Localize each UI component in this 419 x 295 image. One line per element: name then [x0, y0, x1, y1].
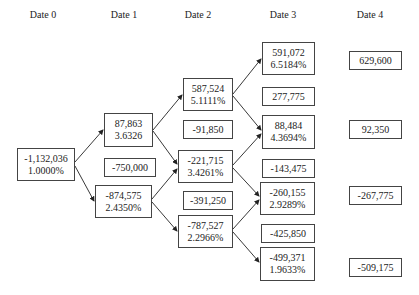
node-date3-udd: -260,155 2.9289%	[260, 182, 315, 215]
node-value: -143,475	[271, 163, 307, 175]
arrow-dd-ddd	[233, 232, 259, 262]
node-date2-dd: -787,527 2.2966%	[178, 215, 233, 248]
node-value: -221,715	[188, 155, 224, 167]
node-date3-uud: 88,484 4.3694%	[262, 115, 315, 149]
node-value: -267,775	[358, 190, 394, 202]
node-rate: 3.4261%	[188, 167, 224, 179]
node-value: -787,527	[188, 220, 224, 232]
node-date3-uuu: 591,072 6.5184%	[262, 42, 315, 75]
node-rate: 4.3694%	[271, 132, 307, 144]
node-value: 629,600	[359, 55, 392, 67]
node-value: 277,775	[272, 91, 305, 103]
node-rate: 2.2966%	[188, 232, 224, 244]
node-value: -425,850	[270, 228, 306, 240]
arrow-ud-udd	[233, 168, 259, 196]
node-date4-2: 92,350	[349, 120, 402, 139]
node-date4-1: 629,600	[349, 51, 402, 70]
node-value: -1,132,036	[24, 153, 67, 165]
node-value: 88,484	[275, 120, 303, 132]
node-value: -499,371	[270, 252, 306, 264]
node-date4-4: -509,175	[349, 258, 402, 277]
node-rate: 3.6326	[115, 130, 143, 142]
node-value: -260,155	[270, 187, 306, 199]
arrow-dd-udd	[233, 200, 259, 229]
node-date1-up: 87,863 3.6326	[104, 113, 153, 147]
arrow-u-uu	[153, 95, 182, 130]
node-date2-mid1: -91,850	[183, 120, 233, 139]
node-rate: 5.1111%	[191, 95, 226, 107]
arrow-root-down	[75, 166, 94, 201]
arrow-ud-uud	[233, 134, 261, 165]
node-date3-mid3: -425,850	[261, 224, 315, 243]
node-value: -509,175	[358, 262, 394, 274]
node-date2-mid2: -391,250	[183, 191, 233, 210]
node-value: 87,863	[115, 118, 143, 130]
node-date0-root: -1,132,036 1.0000%	[17, 148, 75, 181]
node-rate: 1.0000%	[28, 165, 64, 177]
node-date2-ud: -221,715 3.4261%	[178, 150, 233, 183]
node-value: 92,350	[362, 124, 390, 136]
arrow-root-up	[75, 130, 103, 162]
arrow-u-ud	[153, 131, 177, 164]
node-date3-ddd: -499,371 1.9633%	[260, 247, 315, 281]
node-rate: 1.9633%	[270, 264, 306, 276]
node-value: 587,524	[192, 83, 225, 95]
arrow-d-dd	[152, 202, 177, 231]
node-date1-down: -874,575 2.4350%	[95, 185, 152, 218]
node-date4-3: -267,775	[349, 186, 402, 205]
node-value: -391,250	[190, 195, 226, 207]
arrow-uu-uuu	[233, 59, 261, 94]
node-date2-uu: 587,524 5.1111%	[183, 78, 233, 111]
node-value: -874,575	[106, 190, 142, 202]
node-value: -750,000	[112, 162, 148, 174]
node-rate: 2.9289%	[270, 199, 306, 211]
node-value: 591,072	[272, 47, 305, 59]
node-date3-mid1: 277,775	[262, 87, 315, 106]
node-rate: 2.4350%	[106, 202, 142, 214]
node-date1-mid: -750,000	[104, 158, 156, 177]
node-rate: 6.5184%	[271, 59, 307, 71]
node-date3-mid2: -143,475	[262, 159, 315, 178]
arrow-uu-uud	[233, 96, 261, 130]
node-value: -91,850	[193, 124, 224, 136]
